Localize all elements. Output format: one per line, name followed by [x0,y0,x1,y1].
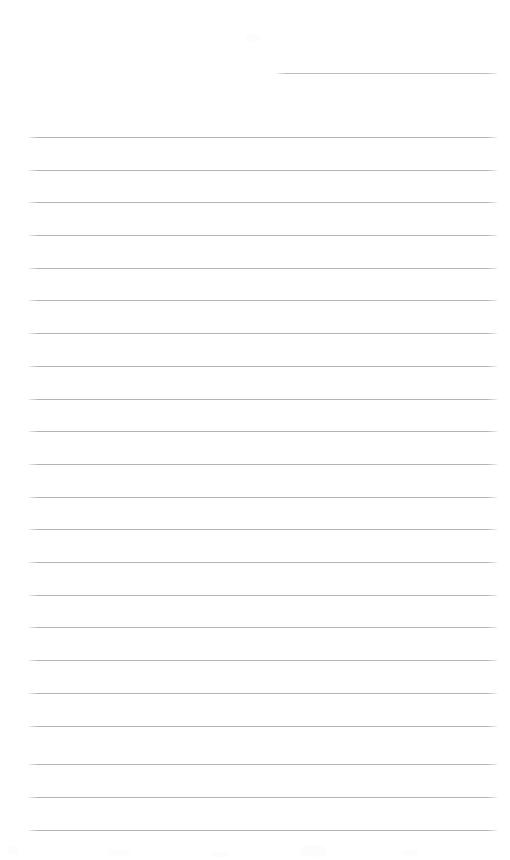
ruled-line [28,627,497,628]
ruled-line [28,529,497,530]
ruled-line [28,235,497,236]
scan-smudge-bottom-mid [108,850,130,856]
scan-smudge-top [246,34,260,42]
ruled-line [28,660,497,661]
scan-smudge-bottom-midb [210,852,228,857]
ruled-line [28,170,497,171]
ruled-line [28,497,497,498]
ruled-line [28,464,497,465]
ruled-line-header [276,73,497,74]
ruled-line [28,764,497,765]
ruled-line [28,595,497,596]
ruled-notepad-page [0,0,510,860]
ruled-line [28,399,497,400]
writing-area[interactable] [0,0,510,860]
ruled-line [28,830,497,831]
ruled-line [28,333,497,334]
ruled-line [28,726,497,727]
scan-smudge-bottom-midc [300,845,326,857]
scan-smudge-bottom-right [402,850,418,856]
ruled-line [28,300,497,301]
ruled-line [28,268,497,269]
ruled-line [28,202,497,203]
ruled-line [28,797,497,798]
ruled-line [28,137,497,138]
scan-smudge-bottom-left [8,846,18,855]
ruled-line [28,562,497,563]
ruled-line [28,366,497,367]
ruled-line [28,693,497,694]
ruled-line [28,431,497,432]
